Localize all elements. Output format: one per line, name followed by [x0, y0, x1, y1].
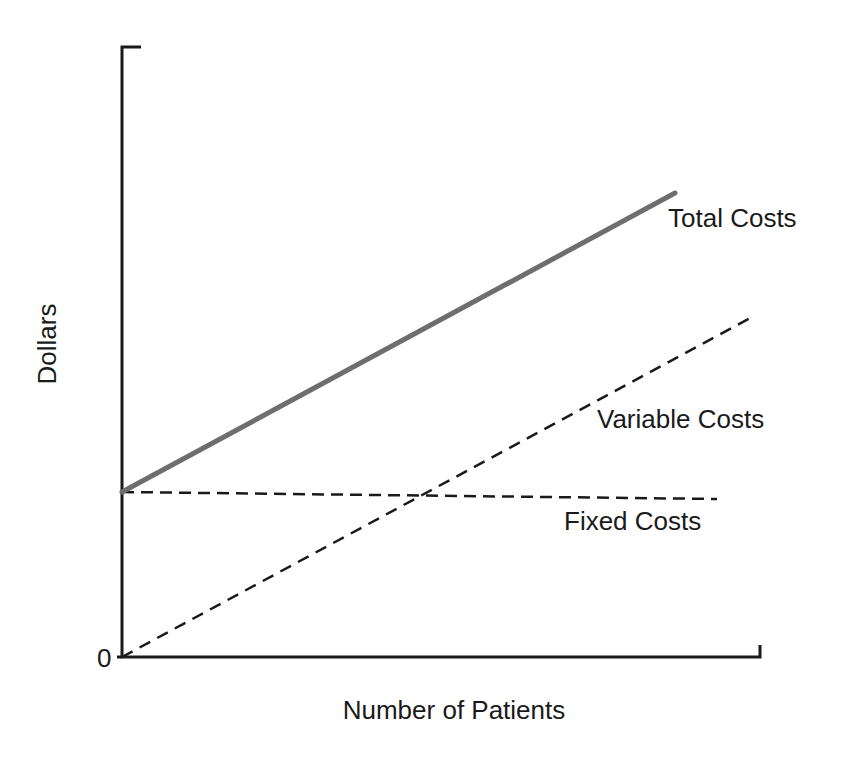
total-costs-line — [122, 193, 675, 492]
y-axis-label: Dollars — [32, 304, 62, 385]
y-tick-zero: 0 — [97, 643, 111, 673]
fixed-costs-line — [122, 492, 717, 499]
fixed-costs-label: Fixed Costs — [564, 506, 701, 536]
chart-axes — [122, 47, 760, 657]
variable-costs-label: Variable Costs — [597, 404, 764, 434]
total-costs-label: Total Costs — [668, 203, 797, 233]
cost-chart: Total Costs Variable Costs Fixed Costs 0… — [0, 0, 866, 757]
variable-costs-line — [122, 317, 752, 657]
x-axis-label: Number of Patients — [343, 695, 566, 725]
